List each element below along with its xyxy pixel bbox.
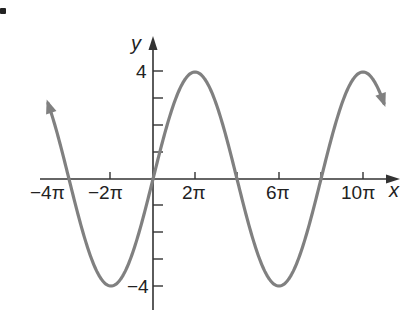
- x-tick-label-2pi: 2π: [182, 182, 206, 203]
- x-tick-label-neg4pi: −4π: [30, 182, 65, 203]
- y-axis-label: y: [129, 32, 142, 54]
- y-tick-label-neg4: −4: [127, 276, 149, 297]
- x-ticks: [68, 172, 363, 179]
- x-tick-label-6pi: 6π: [266, 182, 290, 203]
- y-tick-label-4: 4: [136, 61, 147, 82]
- sine-chart: y x 4 −4 −4π −2π 2π 6π 10π: [0, 0, 420, 335]
- x-tick-label-neg2pi: −2π: [88, 182, 123, 203]
- curve-right-arrow-icon: [375, 92, 385, 107]
- x-axis-label: x: [388, 179, 400, 201]
- y-axis-arrow-icon: [149, 36, 158, 50]
- curve-left-arrow-icon: [46, 100, 56, 115]
- axes: [40, 44, 392, 310]
- x-tick-label-10pi: 10π: [341, 182, 375, 203]
